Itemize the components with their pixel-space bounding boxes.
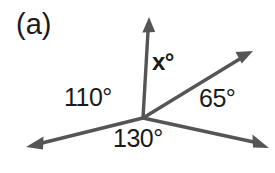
angle-label-110: 110°: [64, 85, 112, 110]
ray-up-shaft: [143, 28, 148, 118]
angle-diagram-figure: (a) x° 110° 65° 130°: [0, 0, 275, 173]
panel-label: (a): [16, 10, 51, 39]
ray-up-arrowhead: [142, 17, 155, 33]
angle-label-x: x°: [152, 50, 174, 74]
angle-label-65: 65°: [199, 86, 235, 111]
ray-lower-right-arrowhead: [253, 135, 270, 149]
angle-label-130: 130°: [113, 126, 163, 151]
ray-lower-left-arrowhead: [26, 137, 44, 150]
